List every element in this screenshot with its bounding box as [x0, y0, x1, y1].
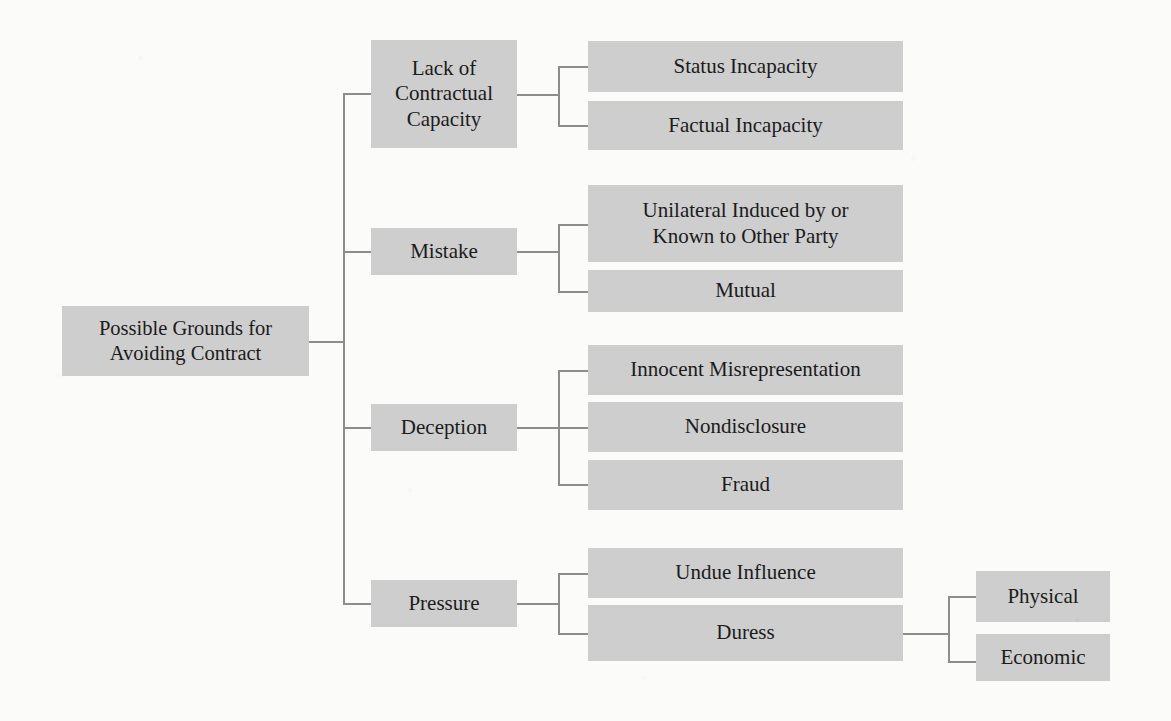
node-capacity-line2: Contractual — [377, 81, 511, 107]
node-factual-incapacity-label: Factual Incapacity — [594, 113, 897, 139]
connector-deception-out — [517, 427, 559, 429]
connector-deception-child-1 — [558, 370, 589, 372]
node-undue-influence-label: Undue Influence — [594, 560, 897, 586]
node-capacity-line3: Capacity — [377, 107, 511, 133]
node-root-line1: Possible Grounds for — [68, 316, 303, 341]
node-duress-label: Duress — [594, 620, 897, 646]
connector-pressure-child-1 — [558, 573, 589, 575]
connector-duress-child-economic — [948, 661, 976, 663]
connector-capacity-bracket — [558, 66, 560, 126]
node-nondisclosure: Nondisclosure — [588, 402, 903, 452]
node-mutual-mistake: Mutual — [588, 270, 903, 312]
node-nondisclosure-label: Nondisclosure — [594, 414, 897, 440]
node-duress: Duress — [588, 605, 903, 661]
connector-branch-stub-pressure — [343, 603, 372, 605]
connector-pressure-child-2 — [558, 633, 589, 635]
connector-duress-child-physical — [948, 596, 976, 598]
node-economic-label: Economic — [982, 645, 1104, 671]
connector-branch-stub-mistake — [343, 251, 372, 253]
node-innocent-misrepresentation: Innocent Misrepresentation — [588, 345, 903, 395]
connector-pressure-bracket — [558, 573, 560, 634]
node-root-line2: Avoiding Contract — [68, 341, 303, 366]
connector-capacity-child-2 — [558, 125, 589, 127]
connector-deception-child-3 — [558, 484, 589, 486]
node-physical-duress: Physical — [976, 571, 1110, 622]
diagram-canvas: Possible Grounds for Avoiding Contract L… — [0, 0, 1171, 721]
node-unilateral-line2: Known to Other Party — [594, 224, 897, 250]
connector-root-spine — [343, 93, 345, 604]
connector-deception-child-2 — [558, 427, 589, 429]
node-status-incapacity: Status Incapacity — [588, 41, 903, 92]
node-innocent-misrepresentation-label: Innocent Misrepresentation — [594, 357, 897, 383]
node-mutual-label: Mutual — [594, 278, 897, 304]
node-physical-label: Physical — [982, 584, 1104, 610]
node-mistake-label: Mistake — [377, 239, 511, 265]
connector-pressure-out — [517, 603, 559, 605]
node-unilateral-line1: Unilateral Induced by or — [594, 198, 897, 224]
node-capacity-line1: Lack of — [377, 56, 511, 82]
node-root: Possible Grounds for Avoiding Contract — [62, 306, 309, 376]
connector-root-stub — [309, 341, 343, 343]
node-pressure-label: Pressure — [377, 591, 511, 617]
connector-mistake-bracket — [558, 224, 560, 292]
node-fraud-label: Fraud — [594, 472, 897, 498]
connector-duress-out — [903, 633, 948, 635]
node-lack-of-contractual-capacity: Lack of Contractual Capacity — [371, 40, 517, 148]
connector-mistake-out — [517, 251, 559, 253]
node-status-incapacity-label: Status Incapacity — [594, 54, 897, 80]
node-deception: Deception — [371, 404, 517, 451]
connector-branch-stub-capacity — [343, 93, 372, 95]
node-mistake: Mistake — [371, 228, 517, 275]
connector-mistake-child-1 — [558, 224, 589, 226]
node-economic-duress: Economic — [976, 634, 1110, 681]
node-deception-label: Deception — [377, 415, 511, 441]
node-undue-influence: Undue Influence — [588, 548, 903, 598]
node-factual-incapacity: Factual Incapacity — [588, 101, 903, 150]
connector-capacity-out — [517, 94, 559, 96]
connector-duress-bracket — [948, 596, 950, 662]
node-pressure: Pressure — [371, 580, 517, 627]
connector-branch-stub-deception — [343, 427, 372, 429]
connector-capacity-child-1 — [558, 66, 589, 68]
node-unilateral-mistake: Unilateral Induced by or Known to Other … — [588, 185, 903, 262]
node-fraud: Fraud — [588, 460, 903, 510]
connector-mistake-child-2 — [558, 291, 589, 293]
